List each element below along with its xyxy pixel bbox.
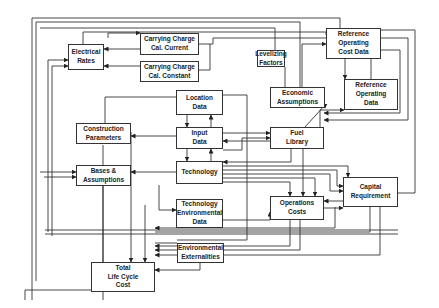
node-technology: Technology	[176, 161, 223, 184]
node-carrying-charge-constant: Carrying Charge Cal. Constant	[140, 61, 199, 82]
connector-line	[199, 44, 210, 70]
node-input-data: Input Data	[176, 127, 223, 149]
connector-line	[223, 178, 315, 196]
connector-line	[108, 33, 140, 38]
node-total-life-cycle-cost: Total Life Cycle Cost	[91, 262, 155, 292]
node-bases-assumptions: Bases & Assumptions	[76, 165, 131, 186]
connector-line	[199, 38, 326, 44]
node-levelizing-factors: Levelizing Factors	[257, 50, 285, 67]
connector-line	[381, 30, 415, 193]
connector-line	[302, 44, 326, 87]
connector-line	[223, 166, 348, 177]
connector-line	[223, 174, 343, 191]
node-electrical-rates: Electrical Rates	[68, 44, 104, 70]
node-fuel-library: Fuel Library	[270, 127, 324, 149]
connector-line	[223, 182, 290, 196]
node-economic-assumptions: Economic Assumptions	[270, 87, 325, 108]
connector-line	[223, 212, 270, 220]
node-carrying-charge-current: Carrying Charge Cal. Current	[140, 33, 199, 55]
node-capital-requirement: Capital Requirement	[343, 177, 398, 207]
node-environmental-externalities: Environmental Externalities	[177, 243, 224, 263]
node-reference-operating-data: Reference Operating Data	[344, 79, 398, 110]
connector-line	[25, 290, 91, 300]
connector-line	[159, 185, 176, 210]
connector-line	[305, 105, 325, 127]
node-location-data: Location Data	[176, 90, 223, 115]
connector-line	[105, 97, 176, 123]
node-construction-parameters: Construction Parameters	[76, 123, 131, 144]
node-reference-operating-cost-data: Reference Operating Cost Data	[326, 28, 381, 59]
connector-line	[155, 263, 200, 270]
connector-line	[223, 138, 270, 150]
connector-line	[223, 149, 291, 162]
node-operations-costs: Operations Costs	[270, 196, 324, 220]
node-technology-environmental-data: Technology Environmental Data	[176, 199, 223, 228]
connector-line	[52, 66, 68, 236]
connector-line	[48, 60, 68, 232]
